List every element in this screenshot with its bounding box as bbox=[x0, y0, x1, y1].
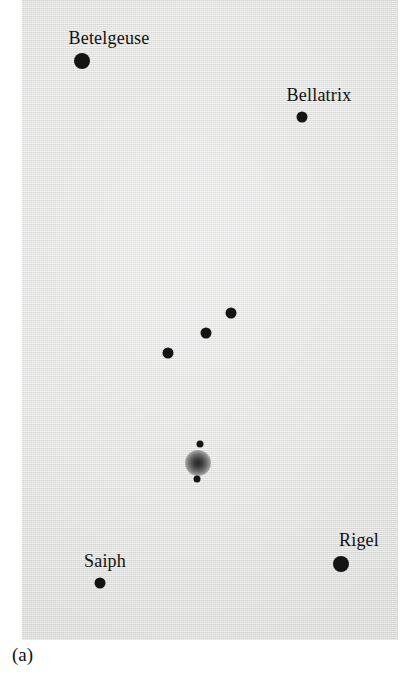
label-betelgeuse: Betelgeuse bbox=[69, 29, 150, 47]
star-belt-alnilam bbox=[201, 328, 212, 339]
orion-nebula bbox=[185, 450, 211, 476]
label-rigel: Rigel bbox=[339, 531, 379, 549]
star-betelgeuse bbox=[74, 53, 90, 69]
label-saiph: Saiph bbox=[84, 552, 126, 570]
star-saiph bbox=[95, 578, 106, 589]
figure-root: Betelgeuse Bellatrix Rigel Saiph (a) bbox=[0, 0, 418, 674]
star-belt-mintaka bbox=[163, 348, 174, 359]
star-bellatrix bbox=[297, 112, 308, 123]
figure-caption: (a) bbox=[12, 645, 33, 664]
star-sword-upper bbox=[197, 441, 204, 448]
sky-image-panel: Betelgeuse Bellatrix Rigel Saiph bbox=[22, 0, 398, 640]
label-bellatrix: Bellatrix bbox=[287, 86, 352, 104]
star-belt-alnitak bbox=[226, 308, 237, 319]
star-rigel bbox=[333, 556, 349, 572]
star-sword-lower bbox=[194, 476, 201, 483]
